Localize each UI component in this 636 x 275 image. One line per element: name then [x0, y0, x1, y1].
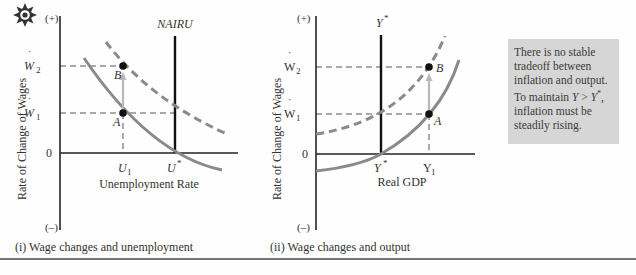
svg-text:1: 1 — [36, 112, 41, 122]
right-ystar-label: Y * — [374, 158, 388, 175]
svg-text:1: 1 — [431, 167, 436, 177]
left-label-b: B — [114, 68, 122, 82]
right-point-b — [425, 63, 433, 71]
right-point-a — [425, 110, 433, 118]
right-minus-label: (–) — [297, 221, 310, 234]
annotation-note: There is no stable tradeoff between infl… — [508, 39, 619, 144]
svg-text:1: 1 — [296, 113, 301, 123]
nairu-label: NAIRU — [156, 17, 194, 31]
svg-text:·: · — [288, 47, 291, 58]
svg-text:W: W — [284, 107, 296, 121]
left-ustar-label: U * — [167, 158, 182, 175]
right-w2-label: · W 2 — [284, 47, 301, 76]
left-minus-label: (–) — [45, 221, 58, 234]
svg-text:*: * — [384, 13, 389, 23]
left-x-axis-label: Unemployment Rate — [99, 177, 199, 191]
svg-text:W: W — [24, 59, 35, 73]
svg-text:Y: Y — [374, 161, 382, 175]
right-label-b: B — [436, 61, 444, 75]
right-w1-label: · W 1 — [284, 94, 301, 123]
gear-sun-icon — [13, 3, 37, 27]
left-zero-label: 0 — [46, 146, 52, 160]
left-plus-label: (+) — [45, 12, 59, 25]
svg-text:U: U — [167, 161, 177, 175]
left-caption: (i) Wage changes and unemployment — [15, 240, 193, 255]
svg-text:Y: Y — [376, 16, 384, 30]
right-y-axis-label: Rate of Change of Wages — [270, 78, 284, 200]
left-dashed-curve — [106, 42, 229, 135]
svg-text:·: · — [288, 94, 291, 105]
svg-text:2: 2 — [36, 65, 41, 75]
right-chart: (+) (–) Y * B A · W 2 · — [270, 12, 475, 234]
ystar-top-label: Y * — [376, 13, 389, 30]
right-x-axis-label: Real GDP — [378, 175, 427, 189]
svg-text:*: * — [383, 158, 388, 168]
right-label-a: A — [433, 114, 442, 128]
svg-text:2: 2 — [296, 66, 301, 76]
left-y-axis-label: Rate of Change of Wages — [15, 78, 29, 200]
left-label-a: A — [112, 115, 121, 129]
right-zero-label: 0 — [302, 147, 308, 161]
right-plus-label: (+) — [297, 12, 311, 25]
bottom-divider — [0, 258, 636, 260]
svg-text:W: W — [284, 60, 296, 74]
svg-text:·: · — [28, 46, 31, 57]
left-chart: (+) (–) NAIRU B A · W 2 · W 1 — [15, 12, 238, 234]
note-gt: > — [578, 91, 590, 103]
left-w2-label: · W 2 — [24, 46, 41, 75]
svg-text:1: 1 — [127, 167, 132, 177]
right-caption: (ii) Wage changes and output — [270, 240, 410, 255]
svg-text:*: * — [177, 158, 182, 168]
left-u1-label: U 1 — [118, 161, 132, 177]
